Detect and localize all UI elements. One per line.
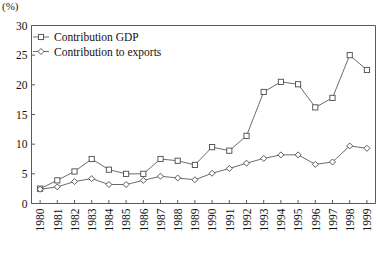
x-tick-label: 1985 bbox=[120, 208, 132, 231]
x-tick-label: 1988 bbox=[172, 208, 184, 231]
x-tick-label: 1992 bbox=[241, 208, 253, 231]
data-point-marker bbox=[38, 34, 43, 39]
x-tick-label: 1998 bbox=[344, 208, 356, 231]
data-point-marker bbox=[54, 184, 60, 190]
data-point-marker bbox=[244, 160, 250, 166]
data-point-marker bbox=[278, 152, 284, 158]
x-tick-label: 1997 bbox=[327, 208, 339, 231]
data-point-marker bbox=[89, 156, 94, 161]
data-point-marker bbox=[330, 95, 335, 100]
y-tick-label: 30 bbox=[16, 20, 28, 32]
data-point-marker bbox=[192, 177, 198, 183]
x-tick-label: 1987 bbox=[155, 208, 167, 231]
data-point-marker bbox=[278, 79, 283, 84]
legend-label: Contribution GDP bbox=[54, 31, 139, 43]
chart-container: (%) 051015202530 19801981198219831984198… bbox=[0, 0, 382, 263]
y-tick-label: 20 bbox=[16, 79, 28, 91]
data-point-marker bbox=[295, 152, 301, 158]
data-point-marker bbox=[210, 145, 215, 150]
y-tick-label: 10 bbox=[16, 138, 28, 150]
x-tick-label: 1995 bbox=[292, 208, 304, 231]
line-chart-plot: 051015202530 198019811982198319841985198… bbox=[0, 0, 382, 263]
data-point-marker bbox=[72, 179, 78, 185]
data-point-marker bbox=[89, 176, 95, 182]
data-point-marker bbox=[175, 175, 181, 181]
x-tick-label: 1989 bbox=[189, 208, 201, 231]
data-point-marker bbox=[364, 145, 370, 151]
x-tick-label: 1991 bbox=[224, 208, 236, 231]
data-point-marker bbox=[261, 89, 266, 94]
legend-label: Contribution to exports bbox=[54, 46, 162, 59]
x-tick-label: 1986 bbox=[138, 208, 150, 231]
series-contribution-to-exports bbox=[37, 143, 370, 192]
data-point-marker bbox=[158, 173, 164, 179]
data-point-marker bbox=[226, 165, 232, 171]
data-point-marker bbox=[140, 177, 146, 183]
x-tick-label: 1981 bbox=[52, 208, 64, 231]
data-point-marker bbox=[244, 133, 249, 138]
data-point-marker bbox=[227, 148, 232, 153]
y-axis-tick-group: 051015202530 bbox=[16, 20, 35, 210]
data-point-marker bbox=[261, 155, 267, 161]
data-point-marker bbox=[347, 53, 352, 58]
legend-item: Contribution GDP bbox=[33, 31, 139, 43]
data-point-marker bbox=[106, 182, 112, 188]
data-point-marker bbox=[175, 158, 180, 163]
x-tick-label: 1999 bbox=[361, 208, 373, 231]
data-point-marker bbox=[313, 105, 318, 110]
x-tick-label: 1984 bbox=[103, 208, 115, 231]
data-point-marker bbox=[158, 156, 163, 161]
data-point-marker bbox=[55, 178, 60, 183]
y-tick-label: 25 bbox=[16, 49, 28, 61]
x-tick-label: 1982 bbox=[69, 208, 81, 231]
chart-legend: Contribution GDPContribution to exports bbox=[33, 31, 162, 59]
y-tick-label: 5 bbox=[22, 168, 28, 180]
data-point-marker bbox=[312, 161, 318, 167]
x-tick-label: 1993 bbox=[258, 208, 270, 231]
y-tick-label: 0 bbox=[22, 198, 28, 210]
x-tick-label: 1990 bbox=[206, 208, 218, 231]
x-tick-label: 1994 bbox=[275, 208, 287, 231]
data-point-marker bbox=[106, 167, 111, 172]
x-tick-label: 1996 bbox=[310, 208, 322, 231]
data-point-marker bbox=[296, 82, 301, 87]
data-point-marker bbox=[364, 67, 369, 72]
data-point-marker bbox=[38, 49, 44, 55]
data-point-marker bbox=[141, 171, 146, 176]
data-point-marker bbox=[123, 182, 129, 188]
x-tick-label: 1983 bbox=[86, 208, 98, 231]
x-axis-tick-group: 1980198119821983198419851986198719881989… bbox=[34, 200, 373, 232]
data-point-marker bbox=[192, 162, 197, 167]
legend-item: Contribution to exports bbox=[33, 46, 162, 59]
data-point-marker bbox=[124, 171, 129, 176]
x-tick-label: 1980 bbox=[34, 208, 46, 231]
series-contribution-gdp bbox=[38, 53, 370, 192]
data-point-marker bbox=[72, 169, 77, 174]
y-tick-label: 15 bbox=[16, 109, 28, 121]
data-point-marker bbox=[209, 170, 215, 176]
data-series-layer bbox=[37, 53, 370, 193]
